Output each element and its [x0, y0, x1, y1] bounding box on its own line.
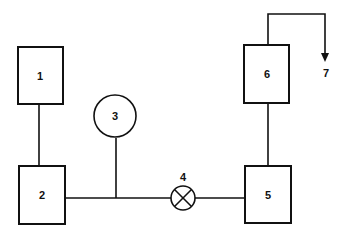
edge-6-7: [268, 14, 325, 54]
label-2: 2: [39, 189, 45, 201]
label-7: 7: [323, 67, 329, 79]
process-diagram: 1 2 3 4 5 6 7: [0, 0, 344, 235]
label-4: 4: [180, 171, 187, 183]
label-5: 5: [265, 189, 271, 201]
valve-icon: [171, 186, 195, 210]
label-6: 6: [264, 68, 270, 80]
label-3: 3: [112, 110, 118, 122]
label-1: 1: [37, 70, 43, 82]
arrow-head-icon: [321, 53, 329, 62]
